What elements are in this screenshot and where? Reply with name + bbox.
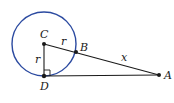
label-c: C bbox=[40, 28, 49, 41]
label-r-cb: r bbox=[61, 35, 67, 48]
point-d bbox=[42, 74, 46, 78]
label-a: A bbox=[163, 69, 172, 82]
label-d: D bbox=[39, 80, 49, 93]
label-r-cd: r bbox=[35, 53, 41, 66]
point-c bbox=[42, 42, 46, 46]
label-x: x bbox=[121, 51, 128, 64]
point-a bbox=[157, 73, 161, 77]
label-b: B bbox=[79, 41, 88, 54]
geometry-diagram: C B D A r r x bbox=[0, 0, 174, 103]
point-b bbox=[74, 50, 78, 54]
segment-da bbox=[44, 75, 159, 76]
